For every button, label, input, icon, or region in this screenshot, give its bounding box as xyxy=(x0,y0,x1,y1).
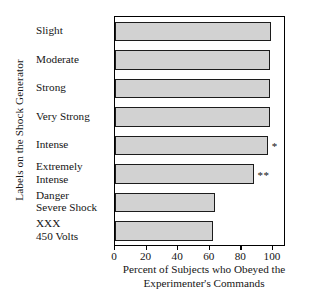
significance-annotation: * xyxy=(272,141,278,151)
y-axis-tick-label-line1: Very Strong xyxy=(36,110,90,122)
y-axis-tick-label-line1: Danger xyxy=(36,189,69,201)
y-axis-tick-label: Very Strong xyxy=(20,110,112,122)
y-axis-tick-label: Intense xyxy=(20,138,112,150)
y-axis-tick-label-line1: Slight xyxy=(36,24,63,36)
y-axis-tick-label: Strong xyxy=(20,81,112,93)
bars-container: *** xyxy=(115,17,284,245)
x-axis-tick-label: 80 xyxy=(235,250,246,262)
y-axis-tick-label-line2: 450 Volts xyxy=(36,230,112,242)
x-axis-title-line1: Percent of Subjects who Obeyed the xyxy=(123,263,286,275)
x-axis-tick-label: 60 xyxy=(203,250,214,262)
bar xyxy=(115,136,268,156)
y-axis-tick-label-line1: Intense xyxy=(36,138,68,150)
x-axis-title: Percent of Subjects who Obeyed the Exper… xyxy=(104,263,304,290)
y-axis-tick-label-line2: Severe Shock xyxy=(36,201,112,213)
y-axis-tick-label: XXX450 Volts xyxy=(20,217,112,242)
y-axis-tick-label: Moderate xyxy=(20,53,112,65)
y-axis-tick-label: ExtremelyIntense xyxy=(20,160,112,185)
y-axis-tick-label-line1: Strong xyxy=(36,81,66,93)
bar xyxy=(115,107,270,127)
x-axis-tick-label: 0 xyxy=(111,250,117,262)
significance-annotation: ** xyxy=(257,170,269,180)
y-axis-tick-label-line1: Moderate xyxy=(36,53,79,65)
plot-area: *** xyxy=(114,16,285,246)
x-axis-tick-label: 100 xyxy=(264,250,281,262)
bar xyxy=(115,221,213,241)
bar-chart-figure: Labels on the Shock Generator SlightMode… xyxy=(0,0,312,295)
bar xyxy=(115,22,271,42)
bar xyxy=(115,79,270,99)
x-axis-tick-label: 20 xyxy=(140,250,151,262)
bar xyxy=(115,193,215,213)
y-axis-tick-label-line1: XXX xyxy=(36,217,60,229)
y-axis-tick-label: Slight xyxy=(20,24,112,36)
x-axis-title-line2: Experimenter's Commands xyxy=(104,277,304,291)
y-axis-tick-label: DangerSevere Shock xyxy=(20,189,112,214)
y-axis-tick-labels: SlightModerateStrongVery StrongIntenseEx… xyxy=(20,16,112,244)
bar xyxy=(115,164,254,184)
bar xyxy=(115,50,270,70)
y-axis-tick-label-line1: Extremely xyxy=(36,160,83,172)
y-axis-tick-label-line2: Intense xyxy=(36,173,112,185)
x-axis-tick-label: 40 xyxy=(172,250,183,262)
